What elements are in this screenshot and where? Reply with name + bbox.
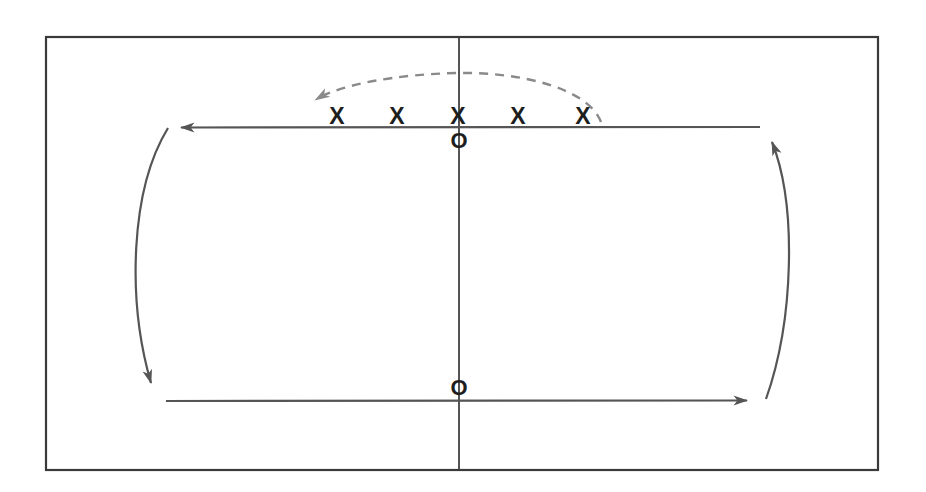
left-curved-arrow	[136, 128, 168, 383]
x-marker: X	[575, 103, 591, 129]
x-marker: X	[329, 103, 345, 129]
o-marker-bottom: O	[450, 375, 467, 400]
right-curved-arrow	[766, 142, 789, 399]
x-marker: X	[450, 103, 466, 129]
x-marker-row: X X X X X	[329, 103, 591, 129]
top-horizontal-arrow	[181, 127, 760, 128]
x-marker: X	[510, 103, 526, 129]
diagram-canvas: X X X X X O O	[0, 0, 926, 492]
diagram-border	[46, 37, 878, 470]
diagram-svg: X X X X X O O	[0, 0, 926, 492]
bottom-horizontal-arrow	[166, 401, 747, 402]
o-marker-top: O	[450, 128, 467, 153]
x-marker: X	[389, 103, 405, 129]
